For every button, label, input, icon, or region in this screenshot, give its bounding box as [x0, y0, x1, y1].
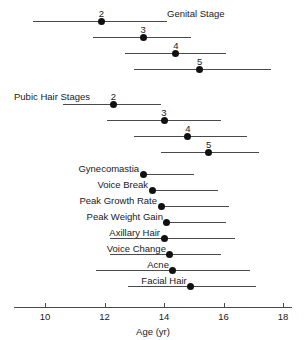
range-line — [152, 190, 217, 191]
row-label: Axillary Hair — [109, 227, 160, 238]
group-title-pubic-hair-stages: Pubic Hair Stages — [14, 91, 90, 102]
data-point — [169, 267, 176, 274]
x-axis-tick — [164, 303, 165, 307]
range-line — [110, 238, 235, 239]
x-axis-tick — [105, 303, 106, 307]
row-label: Voice Break — [97, 179, 148, 190]
x-axis-title: Age (yr) — [136, 326, 170, 337]
data-point — [166, 251, 173, 258]
range-line — [161, 206, 229, 207]
x-axis-tick — [283, 303, 284, 307]
x-axis-tick-label: 16 — [218, 311, 229, 322]
data-point — [110, 101, 117, 108]
data-point — [184, 133, 191, 140]
data-point — [98, 18, 105, 25]
row-label: 5 — [206, 139, 211, 150]
data-point — [161, 117, 168, 124]
x-axis-tick — [224, 303, 225, 307]
row-label: Peak Growth Rate — [79, 195, 157, 206]
data-point — [140, 171, 147, 178]
x-axis-tick-label: 12 — [99, 311, 110, 322]
x-axis-tick — [45, 303, 46, 307]
row-label: 2 — [99, 8, 104, 19]
x-axis-tick-label: 14 — [159, 311, 170, 322]
data-point — [172, 50, 179, 57]
puberty-milestones-chart: 23452345GynecomastiaVoice BreakPeak Grow… — [0, 0, 304, 340]
x-axis-line — [14, 307, 292, 308]
x-axis-tick-label: 18 — [278, 311, 289, 322]
data-point — [161, 235, 168, 242]
group-title-genital-stage: Genital Stage — [167, 8, 225, 19]
row-label: Facial Hair — [141, 275, 186, 286]
data-point — [187, 283, 194, 290]
data-point — [163, 219, 170, 226]
row-label: 3 — [141, 24, 146, 35]
data-point — [205, 149, 212, 156]
row-label: 5 — [197, 56, 202, 67]
row-label: 4 — [185, 123, 190, 134]
row-label: Acne — [147, 259, 169, 270]
row-label: 3 — [161, 107, 166, 118]
plot-area: 23452345GynecomastiaVoice BreakPeak Grow… — [0, 0, 304, 340]
range-line — [167, 222, 227, 223]
row-label: Voice Change — [107, 243, 166, 254]
row-label: 4 — [173, 40, 178, 51]
data-point — [149, 187, 156, 194]
row-label: 2 — [111, 91, 116, 102]
data-point — [196, 66, 203, 73]
range-line — [143, 174, 194, 175]
data-point — [158, 203, 165, 210]
row-label: Gynecomastia — [78, 163, 139, 174]
row-label: Peak Weight Gain — [87, 211, 163, 222]
data-point — [140, 34, 147, 41]
x-axis-tick-label: 10 — [40, 311, 51, 322]
